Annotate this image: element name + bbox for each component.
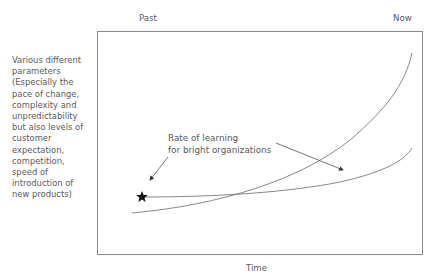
arrow-to-star — [150, 157, 168, 180]
diagram-canvas — [0, 0, 431, 277]
environment-change-curve — [132, 53, 412, 213]
learning-rate-curve — [143, 148, 412, 197]
star-icon — [136, 191, 148, 202]
chart-frame — [98, 32, 423, 255]
